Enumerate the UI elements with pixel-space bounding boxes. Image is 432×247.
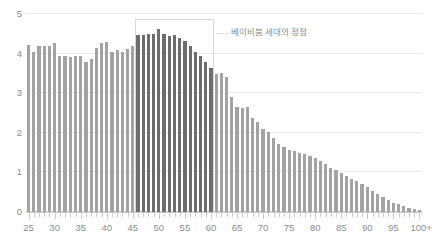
bar-age-83 — [329, 168, 332, 212]
x-tick-30 — [55, 213, 56, 219]
bar-age-67 — [246, 107, 249, 212]
bar-age-64 — [230, 97, 233, 212]
x-tick-37 — [91, 213, 92, 217]
x-tick-78 — [305, 213, 306, 217]
bar-age-74 — [282, 147, 285, 212]
x-tick-27 — [39, 213, 40, 217]
x-tick-label-45: 45 — [128, 223, 139, 233]
x-tick-64 — [232, 213, 233, 217]
x-tick-56 — [190, 213, 191, 217]
bar-age-31 — [58, 56, 61, 212]
bar-age-70 — [261, 129, 264, 212]
bar-age-80 — [314, 158, 317, 212]
x-tick-label-75: 75 — [284, 223, 295, 233]
x-tick-57 — [195, 213, 196, 217]
x-tick-54 — [180, 213, 181, 217]
x-tick-28 — [44, 213, 45, 217]
x-tick-38 — [96, 213, 97, 217]
bar-age-37 — [90, 59, 93, 212]
x-tick-label-55: 55 — [180, 223, 191, 233]
bar-age-25 — [27, 45, 30, 212]
x-tick-92 — [378, 213, 379, 217]
y-axis: 012345 — [0, 14, 22, 212]
x-tick-83 — [331, 213, 332, 217]
x-tick-40 — [107, 213, 108, 219]
x-tick-39 — [102, 213, 103, 217]
x-tick-72 — [274, 213, 275, 217]
x-tick-90 — [367, 213, 368, 219]
bar-age-32 — [63, 56, 66, 212]
bar-age-41 — [110, 52, 113, 212]
x-tick-44 — [128, 213, 129, 217]
x-tick-86 — [346, 213, 347, 217]
x-tick-65 — [237, 213, 238, 219]
bar-age-73 — [277, 144, 280, 212]
x-tick-52 — [169, 213, 170, 217]
bar-age-61 — [215, 74, 218, 212]
bar-age-34 — [74, 56, 77, 212]
x-tick-label-65: 65 — [232, 223, 243, 233]
bar-age-43 — [121, 52, 124, 212]
bar-age-35 — [79, 56, 82, 212]
bar-age-33 — [69, 57, 72, 212]
x-tick-75 — [289, 213, 290, 219]
plot-area: 베이비붐 세대의 정점 — [26, 14, 422, 212]
x-tick-60 — [211, 213, 212, 219]
x-tick-82 — [326, 213, 327, 217]
bar-age-77 — [298, 153, 301, 212]
bar-age-84 — [334, 170, 337, 212]
x-tick-94 — [388, 213, 389, 217]
x-tick-label-95: 95 — [388, 223, 399, 233]
x-tick-100+ — [419, 213, 420, 219]
y-tick-label-5: 5 — [2, 9, 22, 19]
x-tick-label-30: 30 — [49, 223, 60, 233]
x-tick-label-70: 70 — [258, 223, 269, 233]
bar-age-94 — [387, 200, 390, 212]
bar-age-87 — [350, 179, 353, 212]
bar-age-45 — [131, 46, 134, 212]
x-tick-label-80: 80 — [310, 223, 321, 233]
x-tick-81 — [320, 213, 321, 217]
bar-age-39 — [100, 43, 103, 212]
bar-age-96 — [397, 204, 400, 212]
bar-age-89 — [360, 184, 363, 212]
x-tick-96 — [399, 213, 400, 217]
bar-age-88 — [355, 181, 358, 212]
bar-age-76 — [293, 151, 296, 212]
x-tick-91 — [373, 213, 374, 217]
bar-age-93 — [381, 197, 384, 212]
bar-age-62 — [220, 73, 223, 212]
bar-age-71 — [267, 132, 270, 212]
x-tick-label-35: 35 — [75, 223, 86, 233]
x-tick-76 — [294, 213, 295, 217]
x-tick-label-60: 60 — [206, 223, 217, 233]
bar-age-26 — [32, 52, 35, 212]
bar-age-44 — [126, 49, 129, 212]
x-tick-label-25: 25 — [23, 223, 34, 233]
x-tick-61 — [216, 213, 217, 217]
bar-age-78 — [303, 154, 306, 212]
bar-age-69 — [256, 122, 259, 212]
bars-group — [26, 14, 422, 212]
bar-age-66 — [241, 108, 244, 212]
x-tick-66 — [242, 213, 243, 217]
bar-age-36 — [84, 62, 87, 212]
x-tick-69 — [258, 213, 259, 217]
annotation-leader-line — [216, 33, 228, 35]
x-tick-43 — [122, 213, 123, 217]
x-tick-71 — [268, 213, 269, 217]
x-tick-50 — [159, 213, 160, 219]
x-tick-79 — [310, 213, 311, 217]
x-tick-95 — [393, 213, 394, 219]
bar-age-92 — [376, 194, 379, 212]
x-tick-46 — [138, 213, 139, 217]
x-tick-45 — [133, 213, 134, 219]
x-tick-59 — [206, 213, 207, 217]
bar-age-42 — [116, 50, 119, 212]
x-tick-33 — [70, 213, 71, 217]
x-tick-55 — [185, 213, 186, 219]
bar-age-91 — [371, 191, 374, 212]
x-tick-47 — [143, 213, 144, 217]
x-tick-51 — [164, 213, 165, 217]
